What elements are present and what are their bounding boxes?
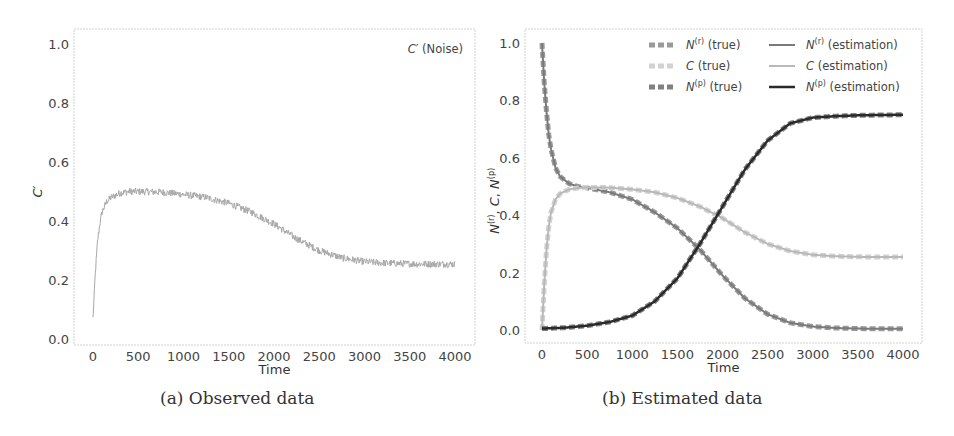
y-tick-label: 0.6 bbox=[48, 155, 69, 170]
legend-label: C (true) bbox=[686, 59, 730, 73]
x-axis-label: Time bbox=[258, 362, 291, 377]
x-tick-label: 3500 bbox=[841, 347, 874, 362]
y-axis-label: N(r), C, N(p) bbox=[487, 168, 502, 234]
x-tick-label: 0 bbox=[89, 349, 97, 364]
x-tick-label: 4000 bbox=[886, 347, 919, 362]
y-tick-label: 0.8 bbox=[48, 96, 69, 111]
series-line-n-p-estimation- bbox=[542, 115, 903, 329]
y-tick-label: 0.0 bbox=[499, 323, 520, 338]
series-line-n-p-true- bbox=[542, 115, 903, 329]
noise-annotation: C′ (Noise) bbox=[408, 42, 463, 56]
legend-label: N(r) (true) bbox=[686, 37, 740, 52]
x-tick-label: 2500 bbox=[303, 349, 336, 364]
y-tick-label: 0.2 bbox=[499, 266, 520, 281]
series-line-c-noise- bbox=[93, 188, 455, 317]
x-tick-label: 1500 bbox=[661, 347, 694, 362]
x-axis-label: Time bbox=[707, 360, 740, 375]
estimated-data-chart: 050010001500200025003000350040000.00.20.… bbox=[487, 29, 922, 375]
caption-estimated-data: (b) Estimated data bbox=[602, 388, 762, 408]
x-tick-label: 500 bbox=[126, 349, 151, 364]
legend: N(r) (true)N(r) (estimation)C (true)C (e… bbox=[649, 37, 900, 94]
plot-frame bbox=[74, 29, 475, 345]
x-tick-label: 1500 bbox=[212, 349, 245, 364]
x-tick-label: 1000 bbox=[167, 349, 200, 364]
y-tick-label: 0.4 bbox=[48, 214, 69, 229]
y-tick-label: 0.6 bbox=[499, 151, 520, 166]
legend-label: C (estimation) bbox=[806, 59, 888, 73]
x-tick-label: 3500 bbox=[393, 349, 426, 364]
y-tick-label: 1.0 bbox=[48, 37, 69, 52]
y-axis-label: C′ bbox=[30, 185, 45, 197]
y-tick-label: 0.8 bbox=[499, 93, 520, 108]
x-tick-label: 1000 bbox=[616, 347, 649, 362]
figure: 050010001500200025003000350040000.00.20.… bbox=[0, 0, 954, 436]
x-tick-label: 500 bbox=[575, 347, 600, 362]
x-tick-label: 2500 bbox=[751, 347, 784, 362]
legend-label: N(r) (estimation) bbox=[806, 37, 898, 52]
x-tick-label: 4000 bbox=[438, 349, 471, 364]
y-tick-label: 0.0 bbox=[48, 332, 69, 347]
y-tick-label: 1.0 bbox=[499, 36, 520, 51]
legend-label: N(p) (estimation) bbox=[806, 79, 900, 94]
caption-observed-data: (a) Observed data bbox=[160, 388, 314, 408]
x-tick-label: 0 bbox=[538, 347, 546, 362]
observed-data-chart: 050010001500200025003000350040000.00.20.… bbox=[30, 29, 475, 377]
x-tick-label: 3000 bbox=[796, 347, 829, 362]
legend-label: N(p) (true) bbox=[686, 79, 742, 94]
y-tick-label: 0.2 bbox=[48, 273, 69, 288]
y-tick-label: 0.4 bbox=[499, 208, 520, 223]
x-tick-label: 3000 bbox=[348, 349, 381, 364]
